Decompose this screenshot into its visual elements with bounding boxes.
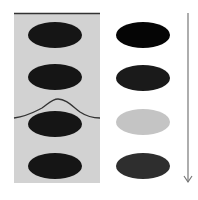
left-ellipse-3 — [28, 111, 82, 137]
diagram-canvas — [0, 0, 198, 200]
right-ellipse-3 — [116, 109, 170, 135]
left-ellipse-2 — [28, 64, 82, 90]
right-ellipse-1 — [116, 22, 170, 48]
left-ellipse-4 — [28, 153, 82, 179]
down-arrow-icon — [184, 13, 192, 182]
right-ellipse-2 — [116, 65, 170, 91]
left-ellipse-1 — [28, 22, 82, 48]
right-ellipse-4 — [116, 153, 170, 179]
